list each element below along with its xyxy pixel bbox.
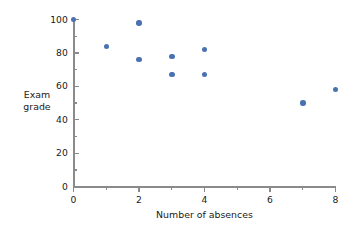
y-tick-label-0: 0 [42,181,68,192]
y-axis-title: Examgrade [8,89,66,112]
x-tick-label-6: 6 [259,194,281,205]
x-minor-tick-7 [302,187,303,190]
y-tick-60 [74,86,79,87]
data-point [202,47,207,52]
x-tick-0 [73,187,74,192]
x-minor-tick-3 [171,187,172,190]
scatter-plot-figure: 020406080100 02468 Examgrade Number of a… [0,0,357,229]
y-tick-label-20: 20 [42,147,68,158]
data-point [136,20,141,25]
x-tick-8 [335,187,336,192]
x-tick-label-4: 4 [194,194,216,205]
x-tick-4 [204,187,205,192]
data-point [333,87,338,92]
x-tick-2 [138,187,139,192]
y-axis-title-line-1: grade [8,101,66,113]
data-point [202,72,207,77]
data-point [300,100,305,105]
x-tick-label-8: 8 [325,194,347,205]
y-tick-label-80: 80 [42,47,68,58]
y-minor-tick-10 [74,169,77,170]
y-minor-tick-30 [74,136,77,137]
y-tick-0 [74,186,79,187]
x-minor-tick-5 [237,187,238,190]
x-tick-label-0: 0 [63,194,85,205]
y-tick-label-100: 100 [42,14,68,25]
data-point [71,17,76,22]
y-tick-80 [74,52,79,53]
y-minor-tick-70 [74,69,77,70]
y-axis-title-line-0: Exam [8,89,66,101]
x-tick-label-2: 2 [128,194,150,205]
data-point [104,44,109,49]
x-minor-tick-1 [106,187,107,190]
y-minor-tick-90 [74,36,77,37]
y-tick-20 [74,153,79,154]
y-tick-40 [74,119,79,120]
y-tick-label-40: 40 [42,114,68,125]
x-axis-title: Number of absences [73,209,336,220]
data-point [169,54,174,59]
data-point [169,72,174,77]
x-tick-6 [269,187,270,192]
data-point [136,57,141,62]
y-minor-tick-50 [74,102,77,103]
